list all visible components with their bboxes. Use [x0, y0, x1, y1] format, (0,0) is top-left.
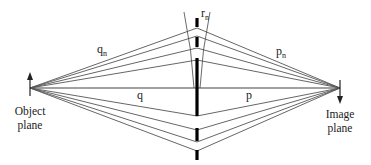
- zone-plate-diagram: rn qn pn q p Object plane Image plane: [0, 0, 371, 165]
- image-arrow-icon: [337, 80, 343, 104]
- label-q: q: [137, 88, 143, 102]
- label-rn: rn: [201, 6, 209, 22]
- object-arrow-icon: [27, 72, 33, 96]
- label-image-plane-2: plane: [328, 122, 353, 135]
- label-qn: qn: [97, 42, 107, 58]
- label-image-plane-1: Image: [326, 108, 355, 121]
- rays-image-side: [197, 28, 340, 151]
- label-p: p: [246, 88, 252, 102]
- label-object-plane-1: Object: [15, 105, 46, 118]
- label-pn: pn: [276, 44, 286, 60]
- label-object-plane-2: plane: [18, 119, 43, 132]
- rays-object-side: [30, 28, 197, 151]
